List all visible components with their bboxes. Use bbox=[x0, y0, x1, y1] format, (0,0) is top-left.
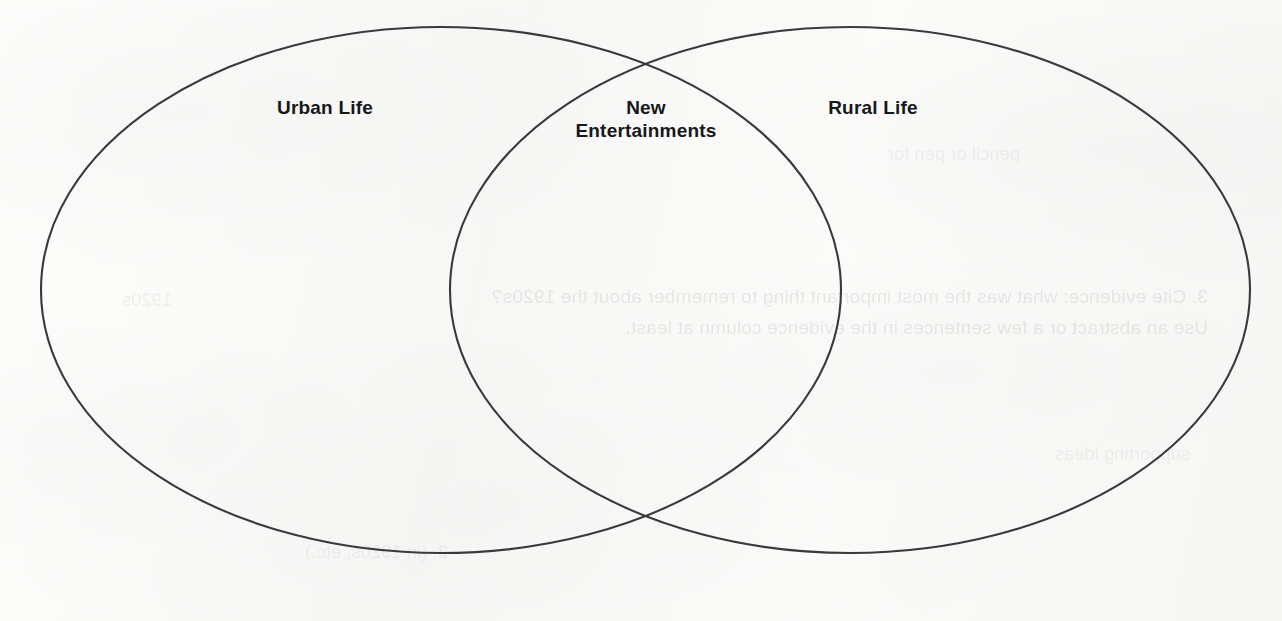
venn-label-left: Urban Life bbox=[222, 96, 428, 119]
venn-label-intersection: New Entertainments bbox=[552, 96, 740, 142]
venn-label-right: Rural Life bbox=[770, 96, 976, 119]
worksheet-page: 3. Cite evidence: what was the most impo… bbox=[0, 0, 1282, 621]
venn-diagram bbox=[0, 0, 1282, 621]
